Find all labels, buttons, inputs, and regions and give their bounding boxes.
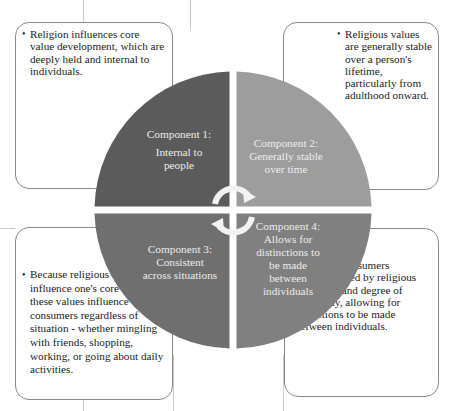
quadrant-1-label: Component 1: Internal to people (130, 128, 228, 172)
quadrant-circle (0, 0, 452, 411)
component-title: Component 1: (130, 128, 228, 141)
quadrant-3-label: Component 3: Consistent across situation… (128, 243, 232, 282)
component-title: Component 3: (128, 243, 232, 256)
component-title: Component 4: (248, 220, 328, 233)
quadrant-4-label: Component 4: Allows for distinctions to … (248, 220, 328, 298)
component-title: Component 2: (236, 137, 336, 150)
quadrant-2-label: Component 2: Generally stable over time (236, 137, 336, 176)
